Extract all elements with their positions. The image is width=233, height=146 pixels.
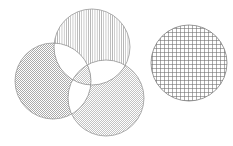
circles-diagram: Four hatched circles diagram Three overl… <box>0 0 233 146</box>
figure-canvas: Four hatched circles diagram Three overl… <box>0 0 233 146</box>
circle-right-fill <box>151 25 227 101</box>
standalone-circle-group <box>151 25 227 101</box>
